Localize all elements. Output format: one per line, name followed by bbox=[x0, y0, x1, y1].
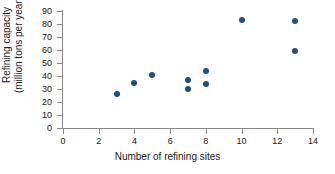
x-tick-mark bbox=[134, 129, 135, 134]
x-axis-title: Number of refining sites bbox=[0, 151, 335, 162]
scatter-chart: 0102030405060708090 02468101214 Number o… bbox=[0, 0, 335, 174]
x-tick-mark bbox=[63, 129, 64, 134]
y-tick-mark bbox=[57, 128, 62, 129]
x-tick-label: 2 bbox=[89, 136, 109, 146]
y-tick-mark bbox=[57, 76, 62, 77]
y-tick-mark bbox=[57, 89, 62, 90]
y-tick-mark bbox=[57, 50, 62, 51]
data-point bbox=[185, 86, 191, 92]
y-tick-label: 80 bbox=[26, 19, 52, 29]
y-tick-mark bbox=[57, 102, 62, 103]
y-tick-mark bbox=[57, 63, 62, 64]
y-tick-label: 90 bbox=[26, 6, 52, 16]
x-tick-label: 0 bbox=[53, 136, 73, 146]
data-point bbox=[203, 68, 209, 74]
data-point bbox=[203, 81, 209, 87]
data-point bbox=[185, 77, 191, 83]
y-tick-label: 10 bbox=[26, 110, 52, 120]
x-tick-label: 8 bbox=[196, 136, 216, 146]
y-axis-title: Refining capacity (million tons per year… bbox=[1, 0, 25, 109]
data-point bbox=[239, 17, 245, 23]
data-point bbox=[149, 72, 155, 78]
x-tick-label: 14 bbox=[303, 136, 323, 146]
y-tick-label: 0 bbox=[26, 123, 52, 133]
data-point bbox=[114, 91, 120, 97]
y-tick-label: 50 bbox=[26, 58, 52, 68]
y-tick-mark bbox=[57, 24, 62, 25]
data-point bbox=[292, 18, 298, 24]
plot-area bbox=[63, 11, 313, 128]
y-tick-label: 40 bbox=[26, 71, 52, 81]
x-tick-mark bbox=[170, 129, 171, 134]
y-tick-mark bbox=[57, 115, 62, 116]
x-tick-label: 6 bbox=[160, 136, 180, 146]
y-tick-label: 70 bbox=[26, 32, 52, 42]
y-tick-mark bbox=[57, 37, 62, 38]
x-axis-line bbox=[62, 128, 314, 129]
x-tick-mark bbox=[206, 129, 207, 134]
y-axis-title-line-2: (million tons per year) bbox=[13, 0, 25, 109]
x-tick-mark bbox=[277, 129, 278, 134]
y-tick-label: 30 bbox=[26, 84, 52, 94]
y-tick-label: 60 bbox=[26, 45, 52, 55]
y-axis-title-line-1: Refining capacity bbox=[1, 0, 13, 109]
x-tick-mark bbox=[99, 129, 100, 134]
x-tick-label: 4 bbox=[124, 136, 144, 146]
data-point bbox=[292, 48, 298, 54]
x-tick-label: 10 bbox=[232, 136, 252, 146]
y-tick-mark bbox=[57, 11, 62, 12]
x-tick-label: 12 bbox=[267, 136, 287, 146]
x-tick-mark bbox=[313, 129, 314, 134]
y-tick-label: 20 bbox=[26, 97, 52, 107]
data-point bbox=[131, 80, 137, 86]
x-tick-mark bbox=[242, 129, 243, 134]
